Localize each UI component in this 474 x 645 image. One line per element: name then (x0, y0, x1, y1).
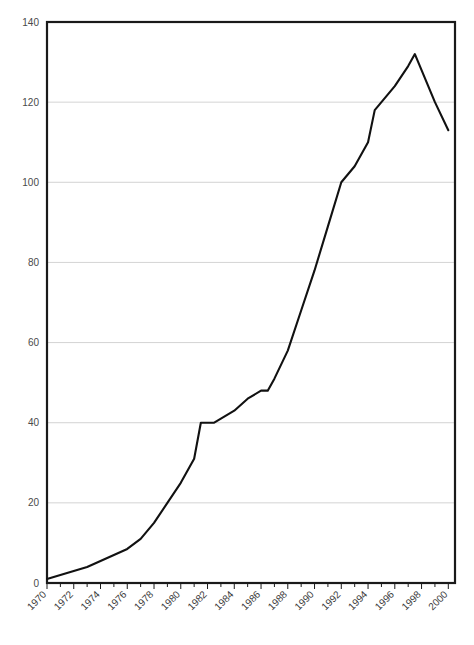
data-series-line (47, 54, 448, 579)
x-axis-tick-label: 1996 (373, 588, 397, 612)
x-axis-tick-label: 2000 (426, 588, 450, 612)
x-axis-tick-label: 1998 (399, 588, 423, 612)
x-axis-tick-label: 1978 (132, 588, 156, 612)
y-axis-tick-label: 20 (28, 497, 40, 508)
y-axis-tick-label: 60 (28, 337, 40, 348)
plot-frame (47, 22, 455, 583)
x-axis-tick-label: 1976 (105, 588, 129, 612)
x-axis-tick-label: 1982 (185, 588, 209, 612)
x-axis-tick-label: 1970 (25, 588, 49, 612)
x-axis-tick-label: 1972 (52, 588, 76, 612)
x-axis-tick-label: 1992 (319, 588, 343, 612)
x-axis-tick-label: 1994 (346, 588, 370, 612)
x-axis-tick-label: 1986 (239, 588, 263, 612)
y-axis-tick-label: 100 (22, 177, 39, 188)
x-axis-tick-label: 1974 (78, 588, 102, 612)
y-axis-tick-label: 40 (28, 417, 40, 428)
x-axis-tick-label: 1990 (292, 588, 316, 612)
x-axis-tick-label: 1984 (212, 588, 236, 612)
x-axis-tick-label: 1988 (266, 588, 290, 612)
y-axis-tick-label: 140 (22, 17, 39, 28)
y-axis-tick-label: 80 (28, 257, 40, 268)
line-chart: 0204060801001201401970197219741976197819… (0, 0, 474, 645)
y-axis-tick-label: 120 (22, 97, 39, 108)
x-axis-tick-label: 1980 (159, 588, 183, 612)
chart-canvas: 0204060801001201401970197219741976197819… (0, 0, 474, 645)
y-axis-tick-label: 0 (33, 578, 39, 589)
